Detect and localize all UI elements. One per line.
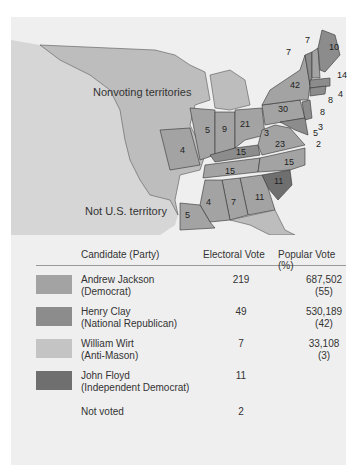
results-table: Candidate (Party) Electoral Vote Popular… <box>36 245 346 424</box>
table-row: Not voted 2 <box>36 400 346 424</box>
svg-text:5: 5 <box>205 125 210 135</box>
popular-cell: 33,108(3) <box>294 338 354 362</box>
electoral-cell: 11 <box>226 370 256 381</box>
electoral-cell: 219 <box>226 274 256 285</box>
election-map: 10 7 7 14 4 8 42 8 30 3 5 2 3 23 21 9 5 … <box>0 0 361 235</box>
electoral-cell: 49 <box>226 306 256 317</box>
svg-text:7: 7 <box>305 35 310 45</box>
svg-text:5: 5 <box>313 128 318 138</box>
legend-swatch-floyd <box>36 371 72 390</box>
popular-cell: 687,502(55) <box>294 274 354 298</box>
svg-text:23: 23 <box>275 139 285 149</box>
table-row: William Wirt(Anti-Mason) 7 33,108(3) <box>36 336 346 368</box>
popular-cell: 530,189(42) <box>294 306 354 330</box>
candidate-cell: John Floyd(Independent Democrat) <box>81 370 189 394</box>
not-us-label: Not U.S. territory <box>85 205 167 217</box>
svg-text:9: 9 <box>222 124 227 134</box>
svg-text:4: 4 <box>206 197 211 207</box>
svg-text:11: 11 <box>255 192 264 202</box>
table-row: Andrew Jackson(Democrat) 219 687,502(55) <box>36 272 346 304</box>
candidate-cell: Henry Clay(National Republican) <box>81 306 177 330</box>
candidate-cell: Andrew Jackson(Democrat) <box>81 274 154 298</box>
svg-text:3: 3 <box>264 128 269 138</box>
electoral-cell: 2 <box>226 406 256 417</box>
svg-text:10: 10 <box>329 42 339 52</box>
svg-text:5: 5 <box>185 210 190 220</box>
svg-text:15: 15 <box>225 166 235 176</box>
svg-text:8: 8 <box>320 107 325 117</box>
table-row: Henry Clay(National Republican) 49 530,1… <box>36 304 346 336</box>
electoral-cell: 7 <box>226 338 256 349</box>
legend-swatch-wirt <box>36 339 72 358</box>
header-electoral: Electoral Vote <box>203 249 265 260</box>
nonvoting-label: Nonvoting territories <box>93 86 191 98</box>
svg-text:7: 7 <box>286 47 291 57</box>
legend-swatch-jackson <box>36 275 72 294</box>
svg-text:42: 42 <box>290 80 300 90</box>
legend-swatch-clay <box>36 307 72 326</box>
svg-text:7: 7 <box>231 197 236 207</box>
table-row: John Floyd(Independent Democrat) 11 <box>36 368 346 400</box>
candidate-cell: William Wirt(Anti-Mason) <box>81 338 138 362</box>
svg-text:30: 30 <box>278 104 288 114</box>
table-header: Candidate (Party) Electoral Vote Popular… <box>36 245 346 266</box>
svg-text:4: 4 <box>338 89 343 99</box>
svg-text:4: 4 <box>180 145 185 155</box>
svg-text:15: 15 <box>284 157 294 167</box>
svg-text:3: 3 <box>318 122 323 132</box>
svg-text:21: 21 <box>240 119 250 129</box>
svg-text:15: 15 <box>236 147 246 157</box>
svg-text:8: 8 <box>328 95 333 105</box>
svg-text:11: 11 <box>274 176 283 186</box>
svg-text:2: 2 <box>316 139 321 149</box>
candidate-cell: Not voted <box>81 406 124 418</box>
header-candidate: Candidate (Party) <box>81 249 159 260</box>
svg-text:14: 14 <box>337 70 347 80</box>
header-popular: Popular Vote (%) <box>278 249 346 271</box>
